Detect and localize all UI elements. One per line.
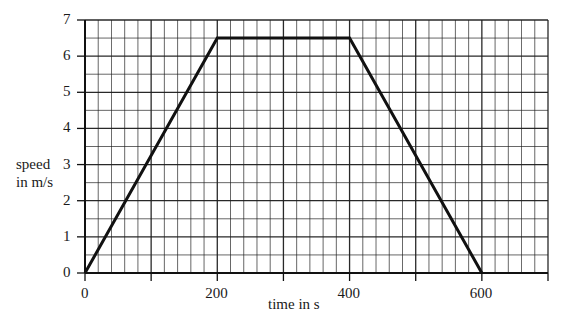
y-tick-label: 1 xyxy=(63,228,71,245)
y-axis-label-line1: speed xyxy=(16,156,50,173)
y-axis-label-line2: in m/s xyxy=(16,174,53,191)
x-tick-label: 200 xyxy=(205,285,228,302)
x-tick-label: 400 xyxy=(338,285,361,302)
y-tick-label: 3 xyxy=(63,156,71,173)
y-tick-label: 0 xyxy=(63,264,71,281)
y-tick-label: 6 xyxy=(63,47,71,64)
axis-ticks xyxy=(77,20,548,281)
x-axis-label: time in s xyxy=(268,296,320,313)
y-tick-label: 4 xyxy=(63,119,71,136)
y-tick-label: 2 xyxy=(63,192,71,209)
speed-time-chart xyxy=(0,0,563,320)
grid xyxy=(85,20,548,273)
x-tick-label: 600 xyxy=(470,285,493,302)
x-tick-label: 0 xyxy=(81,285,89,302)
y-tick-label: 5 xyxy=(63,83,71,100)
y-tick-label: 7 xyxy=(63,11,71,28)
